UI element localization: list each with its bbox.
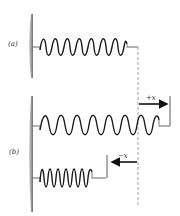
- negative-x-label: −x: [118, 152, 128, 160]
- spring-b-compressed: [33, 169, 106, 187]
- spring-a-equilibrium: [33, 39, 138, 56]
- wall-a: [29, 14, 33, 78]
- positive-x-label: +x: [146, 94, 156, 102]
- panel-label-b: (b): [9, 148, 19, 156]
- spring-diagram: (a) (b) +x −x: [0, 0, 180, 216]
- spring-b-stretched: [33, 115, 170, 135]
- panel-label-a: (a): [8, 40, 18, 48]
- wall-b: [29, 96, 33, 212]
